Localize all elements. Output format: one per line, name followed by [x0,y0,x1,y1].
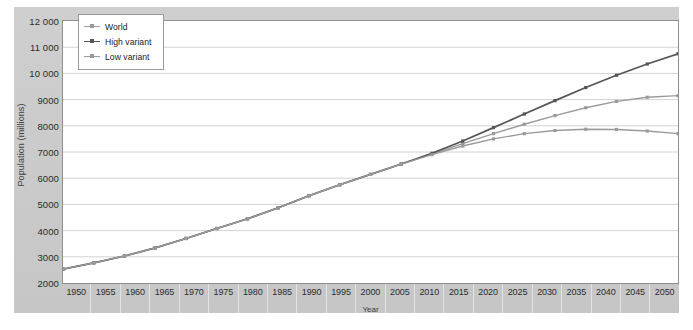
series-marker [461,139,464,142]
series-marker [215,227,218,230]
series-marker [307,194,310,197]
series-marker [523,132,526,135]
series-marker [246,217,249,220]
x-tick-label: 2005 [386,287,414,297]
x-tick-label: 1990 [297,287,325,297]
y-tick-label: 2000 [37,278,59,289]
x-tick-label: 2010 [415,287,443,297]
series-marker [615,100,618,103]
series-marker [492,137,495,140]
series-marker [523,112,526,115]
series-marker [492,132,495,135]
y-tick-label: 11 000 [30,42,59,53]
legend-label: Low variant [105,52,150,62]
y-tick-label: 10 000 [29,68,59,79]
x-tick-label: 1980 [239,287,267,297]
x-tick-label: 2045 [621,287,649,297]
series-marker [154,246,157,249]
y-tick-label: 4000 [37,225,59,236]
x-tick-label: 1950 [62,287,90,297]
series-marker [676,132,678,135]
y-axis-tick-labels: 12 00011 00010 0009000800070006000500040… [18,20,62,284]
series-marker [553,114,556,117]
series-marker [676,94,678,97]
legend-item[interactable]: High variant [84,34,158,49]
legend-marker-icon [84,37,100,47]
series-marker [646,62,649,65]
x-tick-label: 2030 [533,287,561,297]
x-tick-label: 2015 [444,287,472,297]
x-axis-title: Year [62,305,679,314]
series-marker [92,261,95,264]
series-marker [123,254,126,257]
series-marker [553,129,556,132]
series-marker [461,144,464,147]
x-tick-label: 1975 [209,287,237,297]
series-marker [369,173,372,176]
legend-item[interactable]: Low variant [84,49,158,64]
x-tick-label: 1960 [121,287,149,297]
series-marker [492,126,495,129]
series-marker [584,128,587,131]
x-tick-label: 2050 [650,287,678,297]
series-marker [584,106,587,109]
legend-label: High variant [105,37,151,47]
population-projection-chart: Population (millions) 12 00011 00010 000… [0,0,693,330]
y-tick-label: 9000 [37,94,59,105]
series-marker [400,162,403,165]
series-marker [584,86,587,89]
x-tick-label: 1965 [150,287,178,297]
legend-marker-icon [84,52,100,62]
chart-legend: WorldHigh variantLow variant [78,14,164,70]
series-marker [277,206,280,209]
series-marker [523,123,526,126]
series-marker [430,153,433,156]
x-tick-label: 1955 [91,287,119,297]
series-marker [184,237,187,240]
legend-label: World [105,22,128,32]
series-marker [676,52,678,55]
y-tick-label: 8000 [37,120,59,131]
series-marker [615,128,618,131]
x-tick-label: 1985 [268,287,296,297]
y-tick-label: 5000 [37,199,59,210]
series-line [63,96,678,269]
x-tick-label: 2040 [592,287,620,297]
legend-item[interactable]: World [84,19,158,34]
series-marker [646,96,649,99]
x-tick-label: 2020 [474,287,502,297]
y-tick-label: 7000 [37,147,59,158]
x-tick-label: 1970 [180,287,208,297]
x-tick-label: 2025 [503,287,531,297]
x-tick-label: 2000 [356,287,384,297]
series-marker [63,268,65,271]
series-marker [553,99,556,102]
series-marker [615,74,618,77]
series-marker [338,183,341,186]
legend-marker-icon [84,22,100,32]
y-tick-label: 3000 [37,251,59,262]
series-marker [646,129,649,132]
y-tick-label: 12 000 [29,16,59,27]
x-tick-label: 1995 [327,287,355,297]
x-tick-label: 2035 [562,287,590,297]
y-tick-label: 6000 [37,173,59,184]
